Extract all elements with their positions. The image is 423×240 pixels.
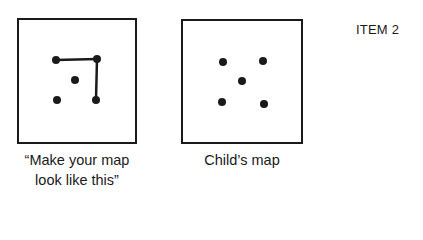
model-map-dot: [92, 96, 100, 104]
model-map-dot: [71, 76, 79, 84]
child-map-dot: [218, 98, 226, 106]
child-map-dot: [259, 57, 267, 65]
model-map-caption-line1: “Make your map: [7, 150, 147, 170]
child-map-caption-line1: Child’s map: [172, 150, 312, 170]
model-map-dot: [93, 55, 101, 63]
model-map-dot: [52, 56, 60, 64]
child-map-dot: [219, 58, 227, 66]
model-map-caption-line2: look like this”: [7, 170, 147, 190]
model-map-dot: [53, 96, 61, 104]
model-map-caption: “Make your map look like this”: [7, 150, 147, 190]
child-map-dot: [260, 100, 268, 108]
child-map-dot: [238, 77, 246, 85]
child-map-caption: Child’s map: [172, 150, 312, 170]
